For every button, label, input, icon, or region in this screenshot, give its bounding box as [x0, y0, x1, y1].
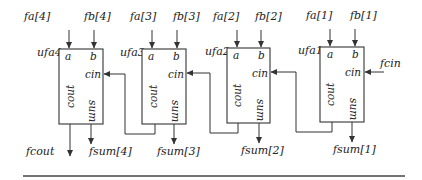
- input-label-fa4: fa[4]: [23, 10, 51, 23]
- port-cin: cin: [345, 66, 361, 78]
- port-b: b: [258, 49, 265, 61]
- port-cout: cout: [64, 84, 76, 108]
- port-cin: cin: [85, 68, 101, 80]
- instance-label: ufa1: [298, 44, 323, 57]
- port-a: a: [327, 48, 333, 60]
- input-label-fa1: fa[1]: [305, 9, 333, 22]
- port-sum: sum: [87, 100, 99, 122]
- full-adder-ufa1: fa[1] fb[1] ufa1 a b cin cout sum fsum[1…: [271, 9, 401, 156]
- port-cout: cout: [324, 82, 336, 106]
- port-sum: sum: [255, 99, 267, 121]
- port-a: a: [65, 50, 71, 62]
- output-label-fsum3: fsum[3]: [156, 145, 201, 158]
- port-cin: cin: [252, 67, 268, 79]
- port-b: b: [352, 48, 359, 60]
- instance-label: ufa3: [120, 46, 145, 59]
- input-label-fb2: fb[2]: [254, 10, 282, 23]
- input-label-fb4: fb[4]: [83, 10, 111, 23]
- port-a: a: [233, 49, 239, 61]
- input-label-fb1: fb[1]: [349, 9, 377, 22]
- output-label-fsum2: fsum[2]: [240, 144, 285, 157]
- instance-label: ufa2: [205, 45, 230, 58]
- adder-diagram: fa[4] fb[4] ufa4 a b cin cout sum fcout …: [0, 0, 422, 180]
- instance-label: ufa4: [37, 46, 62, 59]
- port-cin: cin: [168, 68, 184, 80]
- full-adder-ufa4: fa[4] fb[4] ufa4 a b cin cout sum fcout …: [23, 10, 133, 158]
- input-label-fa3: fa[3]: [129, 10, 157, 23]
- input-label-fa2: fa[2]: [212, 10, 240, 23]
- input-label-fcin: fcin: [379, 57, 401, 70]
- output-label-fsum4: fsum[4]: [88, 145, 133, 158]
- output-label-fcout: fcout: [25, 145, 55, 158]
- port-a: a: [148, 50, 154, 62]
- full-adder-ufa2: fa[2] fb[2] ufa2 a b cin cout sum fsum[2…: [187, 10, 285, 157]
- port-sum: sum: [170, 100, 182, 122]
- input-label-fb3: fb[3]: [172, 10, 200, 23]
- full-adder-ufa3: fa[3] fb[3] ufa3 a b cin cout sum fsum[3…: [104, 10, 201, 158]
- output-label-fsum1: fsum[1]: [332, 143, 377, 156]
- port-cout: cout: [231, 83, 243, 107]
- port-sum: sum: [348, 98, 360, 120]
- port-b: b: [90, 50, 97, 62]
- port-cout: cout: [147, 84, 159, 108]
- port-b: b: [173, 50, 180, 62]
